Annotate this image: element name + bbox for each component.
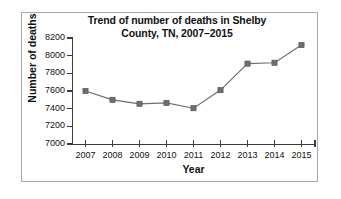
data-series-layer — [0, 0, 341, 199]
data-point-marker — [299, 42, 304, 47]
data-point-marker — [218, 88, 223, 93]
series-line-number-of-deaths — [86, 45, 302, 108]
chart-figure: Trend of number of deaths in Shelby Coun… — [0, 0, 341, 199]
data-point-marker — [83, 88, 88, 93]
data-point-marker — [272, 60, 277, 65]
data-point-marker — [164, 100, 169, 105]
data-point-marker — [110, 97, 115, 102]
data-point-marker — [137, 101, 142, 106]
data-point-marker — [245, 61, 250, 66]
data-point-marker — [191, 106, 196, 111]
